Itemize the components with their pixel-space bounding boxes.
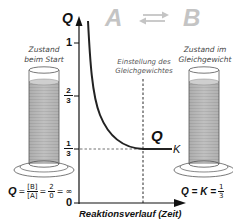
x-axis	[79, 199, 186, 207]
reactant-label: A	[105, 4, 122, 32]
start-formula: Q = [B] [A] = 2 0 = ∞	[8, 180, 72, 202]
equilibrium-cylinder	[174, 67, 233, 177]
equilibrium-arrows-icon	[137, 11, 171, 25]
fraction-2-over-0: 2 0	[48, 183, 54, 200]
equilibrium-annotation: Einstellung des Gleichgewichtes	[112, 58, 176, 76]
curve-q-label: Q	[151, 127, 163, 144]
tick-one-third: 1 3	[64, 139, 73, 158]
fraction-b-over-a: [B] [A]	[27, 183, 37, 200]
equilibrium-state-title: Zustand im Gleichgewicht	[174, 45, 233, 65]
reaction-equation: A B	[105, 4, 205, 30]
start-cylinder	[14, 67, 74, 177]
tick-two-thirds: 2 3	[64, 86, 73, 105]
start-state-title: Zustand beim Start	[14, 45, 74, 65]
x-axis-label: Reaktionsverlauf (Zeit)	[79, 208, 181, 219]
y-axis-arrow-icon	[76, 16, 83, 26]
y-axis	[74, 16, 83, 204]
equilibrium-formula: Q = K = 1 3	[181, 180, 224, 202]
k-label: K	[173, 143, 180, 155]
fraction-one-third: 1 3	[218, 183, 224, 200]
y-axis-label: Q	[62, 10, 73, 26]
product-label: B	[183, 4, 200, 32]
